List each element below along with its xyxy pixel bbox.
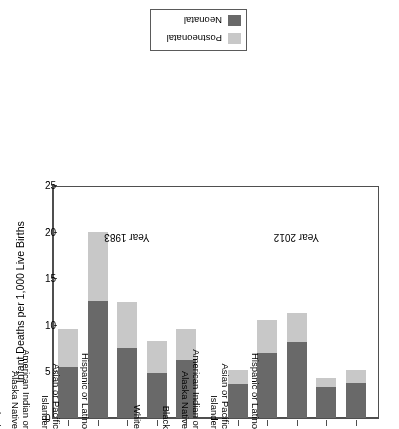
bar-segment-postneonatal xyxy=(287,313,307,342)
chart-legend: Postneonatal Neonatal xyxy=(150,9,247,51)
value-tick xyxy=(52,371,57,372)
group-label-year-1983: Year 1983 xyxy=(104,232,149,242)
value-tick xyxy=(52,418,57,419)
category-tick xyxy=(187,420,188,426)
value-axis-title: Infant Deaths per 1,000 Live Births xyxy=(13,186,27,419)
category-label: Hispanic or Latino xyxy=(250,337,261,429)
legend-label-postneonatal: Postneonatal xyxy=(167,34,222,45)
value-tick-label: 25 xyxy=(45,181,56,191)
category-tick xyxy=(356,420,357,426)
legend-swatch-neonatal xyxy=(228,16,241,27)
bar-segment-neonatal xyxy=(346,383,366,418)
category-tick xyxy=(157,420,158,426)
bar-segment-postneonatal xyxy=(258,320,278,353)
bar-segment-neonatal xyxy=(317,387,337,418)
bar-year-1983-3 xyxy=(88,232,108,418)
category-tick xyxy=(98,420,99,426)
bar-segment-postneonatal xyxy=(228,370,248,383)
legend-item-neonatal: Neonatal xyxy=(156,14,241,28)
category-tick xyxy=(268,420,269,426)
category-label: American Indian or Alaska Native xyxy=(180,337,201,429)
category-tick xyxy=(128,420,129,426)
category-tick xyxy=(238,420,239,426)
legend-label-neonatal: Neonatal xyxy=(184,16,222,27)
value-axis: 0510152025 Infant Deaths per 1,000 Live … xyxy=(1,186,53,419)
bar-segment-postneonatal xyxy=(346,370,366,383)
category-label: Black xyxy=(161,337,172,429)
bar-year-2012-0 xyxy=(346,370,366,418)
category-label: Hispanic or Latino xyxy=(80,337,91,429)
legend-swatch-postneonatal xyxy=(228,34,241,45)
value-tick-label: 10 xyxy=(45,321,56,331)
value-tick-label: 5 xyxy=(45,367,51,377)
bar-segment-neonatal xyxy=(228,384,248,418)
value-axis-spine xyxy=(52,186,53,419)
bar-segment-postneonatal xyxy=(59,329,79,366)
legend-item-postneonatal: Postneonatal xyxy=(156,32,241,46)
category-tick xyxy=(327,420,328,426)
bar-year-2012-1 xyxy=(317,378,337,418)
category-tick xyxy=(297,420,298,426)
value-tick-label: 20 xyxy=(45,228,56,238)
category-tick xyxy=(69,420,70,426)
value-tick-label: 0 xyxy=(45,414,51,424)
category-label: White xyxy=(132,337,143,429)
bar-segment-postneonatal xyxy=(317,378,337,387)
bar-year-2012-4 xyxy=(228,370,248,418)
value-axis-title-text: Infant Deaths per 1,000 Live Births xyxy=(14,222,26,384)
value-tick-label: 15 xyxy=(45,274,56,284)
category-label: Asian or Pacific Islander xyxy=(210,337,231,429)
group-label-year-2012: Year 2012 xyxy=(274,232,319,242)
bar-segment-neonatal xyxy=(88,302,108,419)
bar-year-2012-2 xyxy=(287,313,307,418)
bar-segment-neonatal xyxy=(287,342,307,418)
